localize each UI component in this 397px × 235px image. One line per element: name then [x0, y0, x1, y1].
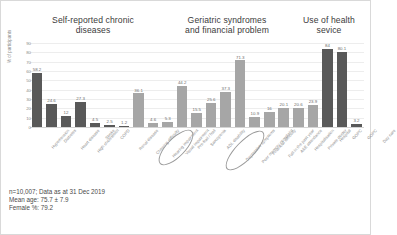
section3-line2: sevice	[293, 25, 365, 35]
bar[interactable]	[235, 60, 246, 127]
bar-slot[interactable]: 25.6	[204, 43, 218, 127]
y-axis-tick-label: 0	[9, 125, 31, 130]
bar[interactable]	[308, 105, 319, 127]
section3-line1: Use of health	[293, 15, 365, 25]
bar-slot[interactable]: 58.2	[30, 43, 44, 127]
bar-slot[interactable]: 36.1	[132, 43, 146, 127]
x-axis-label: GOPC	[351, 128, 363, 141]
bar-value-label: 36.1	[130, 88, 148, 93]
bar-slot[interactable]: 20.1	[277, 43, 291, 127]
bar-value-label: 12	[57, 110, 75, 115]
bar-value-label: 1.2	[115, 120, 133, 125]
bar-slot[interactable]: 16	[262, 43, 276, 127]
bar-value-label: 15.5	[188, 107, 206, 112]
section-title-use-of-health-service: Use of health sevice	[293, 15, 365, 36]
x-axis-category-labels: HypertensionDiabetesHeart diseaseHigh ch…	[30, 128, 364, 188]
x-axis-label: Renal disease	[138, 128, 159, 151]
bar-slot[interactable]: 10.9	[248, 43, 262, 127]
bar-slot[interactable]: 1.2	[117, 43, 131, 127]
bar[interactable]	[191, 113, 202, 127]
y-axis-tick-label: 20	[9, 106, 31, 111]
section-title-chronic-diseases: Self-reported chronic diseases	[35, 15, 151, 36]
bar-slot[interactable]: 4.5	[88, 43, 102, 127]
bar-value-label: 71.3	[231, 55, 249, 60]
bar[interactable]	[46, 104, 57, 127]
footnote: n=10,007; Data as at 31 Dec 2019 Mean ag…	[9, 188, 105, 213]
y-axis-tick-label: 90	[9, 41, 31, 46]
bar[interactable]	[133, 93, 144, 127]
footnote-line-3: Female %: 79.2	[9, 204, 105, 212]
y-axis-tick-label: 10	[9, 116, 31, 121]
x-axis-label: ADL disability	[225, 128, 246, 150]
x-axis-label: Hospital	[338, 128, 352, 143]
x-axis-label: GOPC	[366, 128, 378, 141]
bar[interactable]	[351, 124, 362, 127]
section2-line1: Geriatric syndromes	[169, 15, 285, 25]
bar-slot[interactable]: 80.1	[335, 43, 349, 127]
x-axis-label: COPD	[119, 128, 131, 140]
bar[interactable]	[162, 122, 173, 127]
bar-value-label: 3.2	[347, 118, 365, 123]
bar-slot[interactable]: 12	[59, 43, 73, 127]
bar-slot[interactable]: 5.3	[161, 43, 175, 127]
bar[interactable]	[249, 117, 260, 127]
bar-value-label: 23.9	[304, 99, 322, 104]
y-axis-tick-label: 70	[9, 60, 31, 65]
footnote-line-2: Mean age: 75.7 ± 7.9	[9, 196, 105, 204]
y-axis-title: % of participants	[7, 30, 12, 63]
bar[interactable]	[264, 112, 275, 127]
bar-slot[interactable]: 4.6	[146, 43, 160, 127]
bar-value-label: 80.1	[333, 46, 351, 51]
section1-line1: Self-reported chronic	[35, 15, 151, 25]
bar-value-label: 5.3	[159, 116, 177, 121]
bar[interactable]	[322, 49, 333, 127]
bar[interactable]	[119, 126, 130, 127]
bar[interactable]	[61, 116, 72, 127]
bar-slot[interactable]: 3.2	[349, 43, 363, 127]
bar[interactable]	[337, 52, 348, 127]
section1-line2: diseases	[35, 25, 151, 35]
footnote-line-1: n=10,007; Data as at 31 Dec 2019	[9, 188, 105, 196]
bar[interactable]	[177, 86, 188, 127]
bar-value-label: 37.3	[217, 86, 235, 91]
plot-area: 0102030405060708090 58.224.61227.34.52.5…	[30, 43, 364, 127]
y-axis-tick-label: 30	[9, 97, 31, 102]
bar-value-label: 25.6	[202, 97, 220, 102]
bar-series: 58.224.61227.34.52.51.236.14.65.344.215.…	[30, 43, 364, 127]
x-axis-label: Day care	[382, 128, 397, 144]
bar-slot[interactable]: 23.9	[306, 43, 320, 127]
y-axis-tick-label: 50	[9, 78, 31, 83]
bar-slot[interactable]: 20.6	[291, 43, 305, 127]
bar-value-label: 58.2	[28, 67, 46, 72]
bar[interactable]	[75, 102, 86, 127]
bar-value-label: 10.9	[246, 111, 264, 116]
bar-slot[interactable]: 2.5	[103, 43, 117, 127]
x-axis-label: Depressive symptoms	[245, 128, 276, 162]
bar-slot[interactable]: 44.2	[175, 43, 189, 127]
section2-line2: and financial problem	[169, 25, 285, 35]
bar-value-label: 27.3	[72, 96, 90, 101]
bar[interactable]	[206, 103, 217, 127]
bar[interactable]	[293, 108, 304, 127]
bar[interactable]	[220, 92, 231, 127]
bar[interactable]	[104, 125, 115, 127]
bar[interactable]	[90, 123, 101, 127]
bar-slot[interactable]: 15.5	[190, 43, 204, 127]
y-axis-tick-label: 40	[9, 88, 31, 93]
bar[interactable]	[278, 108, 289, 127]
y-axis-tick-label: 80	[9, 50, 31, 55]
bar-slot[interactable]: 84	[320, 43, 334, 127]
bar[interactable]	[32, 73, 43, 127]
bar[interactable]	[148, 123, 159, 127]
section-title-geriatric-syndromes: Geriatric syndromes and financial proble…	[169, 15, 285, 36]
bar-slot[interactable]: 27.3	[74, 43, 88, 127]
bar-value-label: 24.6	[43, 98, 61, 103]
bar-value-label: 44.2	[173, 80, 191, 85]
